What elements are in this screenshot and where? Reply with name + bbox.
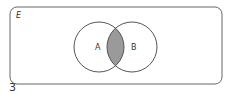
venn-diagram: E A B (0, 0, 234, 94)
universal-set-label: E (16, 11, 22, 20)
set-a-label: A (95, 43, 101, 52)
set-b-label: B (131, 43, 137, 52)
question-number: 3 (9, 82, 16, 94)
